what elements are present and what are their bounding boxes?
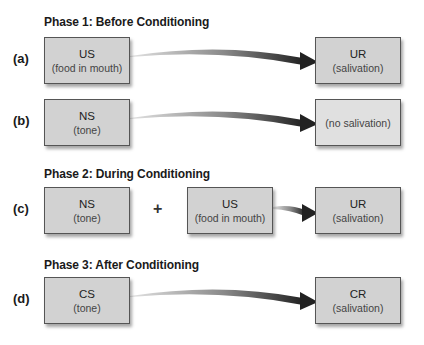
box-d-stimulus-main: CS [79,287,95,301]
box-c-stimulus-2-main: US [222,197,238,211]
box-b-stimulus: NS (tone) [44,99,130,146]
row-label-d: (d) [13,291,30,306]
box-a-stimulus: US (food in mouth) [44,37,130,84]
arrow-a-icon [130,49,318,70]
box-d-stimulus: CS (tone) [44,277,130,324]
box-c-stimulus-1-sub: (tone) [73,211,100,225]
box-c-stimulus-2: US (food in mouth) [187,187,273,234]
box-b-response-sub: (no salivation) [325,116,390,130]
row-label-a: (a) [13,51,29,66]
box-c-stimulus-1-main: NS [79,197,95,211]
phase-1-title: Phase 1: Before Conditioning [44,15,209,29]
box-d-response-main: CR [350,287,367,301]
box-d-response: CR (salivation) [315,277,401,324]
box-b-stimulus-sub: (tone) [73,123,100,137]
box-c-stimulus-1: NS (tone) [44,187,130,234]
box-a-stimulus-sub: (food in mouth) [52,61,123,75]
box-d-response-sub: (salivation) [333,301,384,315]
arrow-d-icon [130,289,318,310]
box-c-response-main: UR [350,197,367,211]
box-b-stimulus-main: NS [79,109,95,123]
plus-operator: + [153,200,162,218]
box-c-response-sub: (salivation) [333,211,384,225]
row-label-c: (c) [13,201,29,216]
box-a-response: UR (salivation) [315,37,401,84]
box-c-response: UR (salivation) [315,187,401,234]
phase-3-title: Phase 3: After Conditioning [44,258,199,272]
phase-2-title: Phase 2: During Conditioning [44,167,210,181]
box-a-response-sub: (salivation) [333,61,384,75]
box-a-stimulus-main: US [79,47,95,61]
box-c-stimulus-2-sub: (food in mouth) [195,211,266,225]
arrow-b-icon [130,111,318,132]
box-d-stimulus-sub: (tone) [73,301,100,315]
row-label-b: (b) [13,113,30,128]
arrow-c-icon [273,204,318,222]
box-a-response-main: UR [350,47,367,61]
box-b-response: (no salivation) [315,99,401,146]
